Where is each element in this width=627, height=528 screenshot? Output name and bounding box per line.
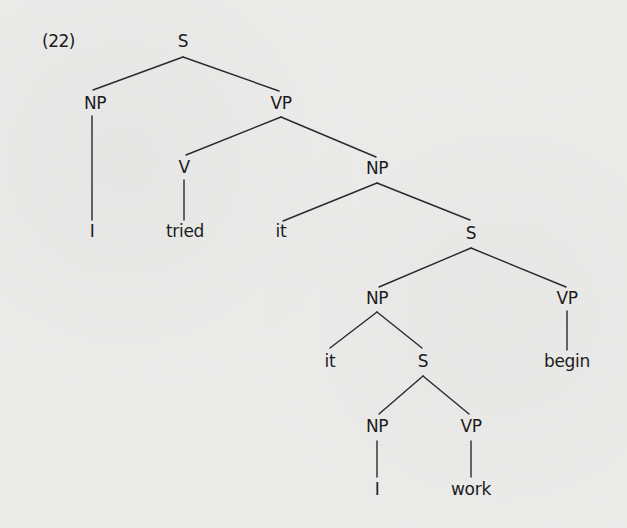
tree-edge <box>471 248 566 287</box>
tree-edge <box>281 117 376 157</box>
tree-edge <box>377 183 470 220</box>
tree-edge <box>330 312 377 348</box>
tree-node-category: VP <box>461 416 482 436</box>
tree-node-word: I <box>90 221 95 241</box>
tree-edge <box>93 57 183 90</box>
tree-node-category: VP <box>557 288 578 308</box>
tree-node-category: NP <box>366 288 388 308</box>
tree-node-word: work <box>451 479 491 499</box>
tree-node-word: it <box>276 221 287 241</box>
tree-node-category: S <box>466 223 476 243</box>
tree-node-word: I <box>375 479 380 499</box>
tree-node-category: NP <box>366 158 388 178</box>
tree-node-category: S <box>178 31 188 51</box>
tree-node-word: tried <box>166 221 204 241</box>
tree-edge <box>377 312 422 348</box>
tree-edge <box>379 376 423 414</box>
tree-node-category: V <box>178 157 190 177</box>
tree-node-category: NP <box>366 416 388 436</box>
syntax-tree-diagram: SNPVPIVNPtrieditSNPVPitSbeginNPVPIwork <box>0 0 627 528</box>
tree-edges <box>92 57 567 477</box>
tree-edge <box>186 117 281 155</box>
tree-node-word: it <box>325 351 336 371</box>
tree-edge <box>379 248 471 287</box>
document-page: (22) SNPVPIVNPtrieditSNPVPitSbeginNPVPIw… <box>0 0 627 528</box>
tree-edge <box>283 183 377 221</box>
tree-node-word: begin <box>544 351 590 371</box>
tree-edge <box>183 57 279 91</box>
tree-node-category: VP <box>271 93 292 113</box>
tree-node-category: NP <box>84 93 106 113</box>
tree-node-category: S <box>418 351 428 371</box>
tree-edge <box>423 376 469 414</box>
